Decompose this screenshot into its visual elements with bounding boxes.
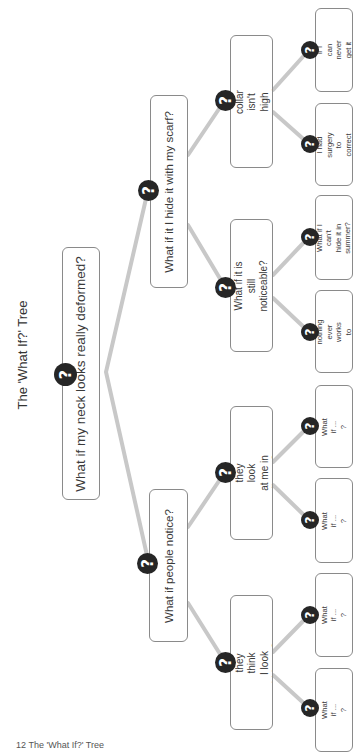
question-icon: ? — [301, 417, 319, 435]
leaf-node: What if ... ? — [315, 668, 353, 752]
branch-label: What if people notice? — [161, 509, 175, 623]
question-icon: ? — [301, 135, 319, 153]
question-icon: ? — [301, 606, 319, 624]
subbranch-label: What if my shirt collar isn't high enoug… — [230, 85, 273, 118]
leaf-label: What if ... ? — [320, 701, 348, 719]
subbranch-node-hideous: What if they think I look hideous? — [230, 595, 273, 730]
figure-caption: 12 The 'What If?' Tree — [16, 740, 104, 750]
subbranch-node-shirt-collar: What if my shirt collar isn't high enoug… — [230, 35, 273, 168]
question-icon: ? — [215, 90, 236, 111]
leaf-label: What if nothing ever works to hide it? — [315, 319, 353, 344]
diagram-title: The 'What If?' Tree — [15, 300, 30, 409]
subbranch-label: What if they think I look hideous? — [230, 642, 273, 683]
leaf-label: What if I can't hide it in summer? — [315, 222, 353, 254]
subbranch-label: What if they look at me in disgust? — [230, 454, 273, 491]
subbranch-node-still-noticeable: What if it is still noticeable? — [230, 219, 273, 352]
leaf-node: What if ... ? — [315, 573, 353, 657]
leaf-label: What if ... ? — [320, 512, 348, 530]
leaf-label: What if ... ? — [320, 418, 348, 436]
leaf-node: What if I can't hide it in summer? — [315, 195, 353, 280]
leaf-label: What if I can never get it fixed? — [315, 40, 353, 60]
subbranch-label: What if it is still noticeable? — [233, 260, 271, 311]
question-icon: ? — [138, 180, 159, 201]
branch-label: What if it I hide it with my scarf? — [162, 111, 176, 273]
question-icon: ? — [215, 277, 236, 298]
leaf-label: What if ... ? — [320, 606, 348, 624]
leaf-node: What if ... ? — [315, 478, 353, 563]
question-icon: ? — [301, 228, 319, 246]
question-icon: ? — [54, 363, 77, 386]
leaf-node: What if I can never get it fixed? — [315, 8, 353, 92]
leaf-node: What if ... ? — [315, 385, 353, 468]
question-icon: ? — [137, 553, 158, 574]
subbranch-node-disgust: What if they look at me in disgust? — [230, 406, 273, 540]
question-icon: ? — [215, 462, 236, 483]
leaf-node: What if I had surgery to correct it? — [315, 103, 353, 186]
question-icon: ? — [301, 699, 319, 717]
question-icon: ? — [301, 323, 319, 341]
question-icon: ? — [301, 511, 319, 529]
question-icon: ? — [301, 41, 319, 59]
question-icon: ? — [215, 652, 236, 673]
leaf-node: What if nothing ever works to hide it? — [315, 290, 353, 373]
leaf-label: What if I had surgery to correct it? — [315, 132, 353, 157]
